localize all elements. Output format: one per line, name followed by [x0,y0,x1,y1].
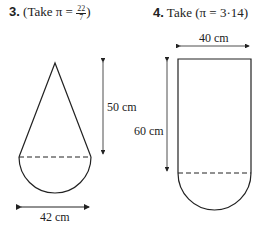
cylinder-hemisphere-figure [167,46,251,210]
hemisphere-diameter-label: 42 cm [40,210,70,225]
cylinder-width-label: 40 cm [199,31,229,46]
hemisphere-outline [19,157,91,193]
cylinder-height-label: 60 cm [134,124,164,139]
cone-hemisphere-figure [19,62,103,207]
cone-outline [19,63,91,157]
cylinder-outline [178,59,251,173]
cone-height-label: 50 cm [107,100,137,115]
hemisphere-outline [178,173,251,210]
